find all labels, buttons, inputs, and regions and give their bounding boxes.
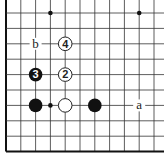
star-point-icon bbox=[48, 103, 53, 108]
star-point-icon bbox=[137, 11, 142, 16]
star-point-icon bbox=[48, 11, 53, 16]
black-stone-3: 3 bbox=[29, 68, 43, 82]
white-stone bbox=[58, 99, 72, 113]
black-stone bbox=[88, 99, 102, 113]
svg-text:b: b bbox=[32, 36, 39, 51]
board-marks: ab bbox=[30, 36, 146, 113]
board-mark-a: a bbox=[133, 97, 145, 112]
white-stone-2: 2 bbox=[58, 68, 72, 82]
black-stone bbox=[29, 99, 43, 113]
board-mark-b: b bbox=[30, 36, 42, 51]
svg-text:2: 2 bbox=[62, 68, 68, 80]
svg-text:4: 4 bbox=[62, 38, 69, 50]
go-board-diagram: ab 234 bbox=[0, 0, 164, 159]
white-stone-4: 4 bbox=[58, 37, 72, 51]
svg-text:a: a bbox=[136, 97, 142, 112]
svg-text:3: 3 bbox=[33, 68, 39, 80]
